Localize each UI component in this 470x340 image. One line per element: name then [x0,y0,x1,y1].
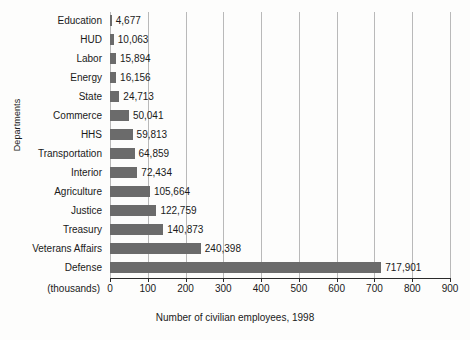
bar [110,167,137,178]
bar-value-label: 50,041 [133,109,164,122]
category-label: Labor [0,52,102,65]
bar-row: Commerce50,041 [0,107,470,126]
category-label: HHS [0,128,102,141]
bar-value-label: 72,434 [141,166,172,179]
category-label: Agriculture [0,185,102,198]
bar-value-label: 105,664 [154,185,190,198]
bar [110,15,112,26]
bar-row: Defense717,901 [0,259,470,278]
bar [110,224,163,235]
bar-row: HHS59,813 [0,126,470,145]
bar-value-label: 15,894 [120,52,151,65]
bar-chart: Departments Education4,677HUD10,063Labor… [0,0,470,340]
category-label: Justice [0,204,102,217]
bar [110,110,129,121]
category-label: Treasury [0,223,102,236]
bar [110,72,116,83]
bar [110,34,114,45]
bar [110,243,201,254]
category-label: Veterans Affairs [0,242,102,255]
category-label: Commerce [0,109,102,122]
bar-value-label: 24,713 [123,90,154,103]
bar [110,129,133,140]
bar-value-label: 4,677 [116,14,141,27]
bar-row: Veterans Affairs240,398 [0,240,470,259]
bar-value-label: 240,398 [205,242,241,255]
bar [110,53,116,64]
bar [110,91,119,102]
x-axis-caption: Number of civilian employees, 1998 [0,312,470,323]
category-label: Defense [0,261,102,274]
bar-row: Agriculture105,664 [0,183,470,202]
x-tick-label: 700 [359,282,389,295]
bar-value-label: 16,156 [120,71,151,84]
category-label: Energy [0,71,102,84]
category-label: State [0,90,102,103]
bar-row: Labor15,894 [0,50,470,69]
x-axis-line [110,278,451,279]
x-tick-label: 100 [133,282,163,295]
bar-row: State24,713 [0,88,470,107]
bar-row: HUD10,063 [0,31,470,50]
bar-row: Justice122,759 [0,202,470,221]
bar [110,148,135,159]
bar-row: Energy16,156 [0,69,470,88]
bar [110,205,156,216]
bar [110,262,381,273]
category-label: HUD [0,33,102,46]
category-label: Education [0,14,102,27]
category-label: Interior [0,166,102,179]
x-tick-label: 400 [246,282,276,295]
x-axis-units-label: (thousands) [28,282,100,295]
x-tick-label: 200 [171,282,201,295]
bar-row: Transportation64,859 [0,145,470,164]
bar-value-label: 717,901 [385,261,421,274]
bar-value-label: 59,813 [137,128,168,141]
x-tick-label: 800 [397,282,427,295]
bar-row: Treasury140,873 [0,221,470,240]
x-tick-label: 900 [435,282,465,295]
x-tick-label: 500 [284,282,314,295]
bar-row: Education4,677 [0,12,470,31]
bar-value-label: 10,063 [118,33,149,46]
bar [110,186,150,197]
bar-value-label: 64,859 [139,147,170,160]
x-tick-label: 300 [208,282,238,295]
x-tick-label: 600 [322,282,352,295]
category-label: Transportation [0,147,102,160]
bar-row: Interior72,434 [0,164,470,183]
bar-value-label: 140,873 [167,223,203,236]
bar-value-label: 122,759 [160,204,196,217]
